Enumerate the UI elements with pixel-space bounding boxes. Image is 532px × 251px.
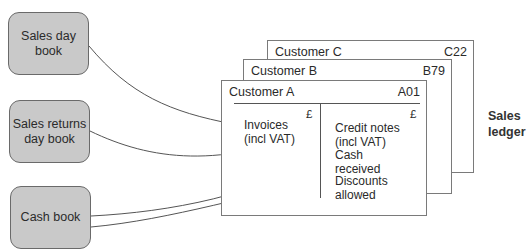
account-name: Customer A [229,85,294,99]
account-code: A01 [398,85,420,99]
sales-ledger-label: Sales ledger [488,108,528,140]
sales-day-book: Sales day book [8,12,89,75]
account-code: C22 [444,45,467,59]
t-account-divider [320,103,321,198]
t-account-header-line [234,103,420,104]
cash-book-label: Cash book [21,210,81,225]
account-customer-a: Customer A A01 £ £ Invoices (incl VAT) C… [221,80,427,216]
sales-day-book-label: Sales day book [19,29,79,59]
account-name: Customer C [275,45,342,59]
credit-currency: £ [410,108,416,120]
entry-credit-notes: Credit notes (incl VAT) [335,122,415,149]
entry-invoices: Invoices (incl VAT) [244,119,310,146]
sales-returns-day-book: Sales returns day book [9,100,90,163]
line-sales-day-to-invoices [89,46,233,124]
account-code: B79 [423,64,445,78]
cash-book: Cash book [10,186,91,249]
account-name: Customer B [251,64,317,78]
entry-cash-received: Cash received [335,149,395,176]
sales-returns-day-book-label: Sales returns day book [11,117,89,147]
entry-discounts-allowed: Discounts allowed [335,175,401,202]
